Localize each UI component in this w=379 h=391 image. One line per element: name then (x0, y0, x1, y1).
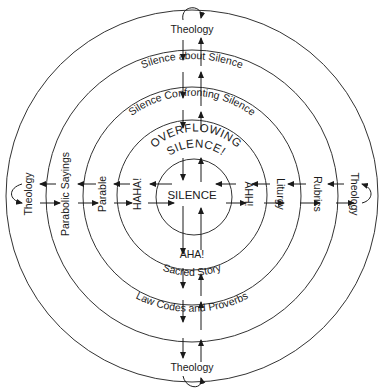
label-haha: HAHA! (131, 178, 143, 210)
loop-arrow-left (12, 184, 23, 203)
label-ahh: AHH! (243, 181, 255, 206)
loop-arrow-right (362, 184, 371, 203)
label-silence-about-silence: Silence about Silence (139, 49, 245, 70)
label-theology-bottom: Theology (170, 361, 214, 373)
label-parable: Parable (96, 176, 108, 212)
label-liturgy: Liturgy (275, 178, 287, 210)
label-law-codes-and-proverbs: Law Codes and Proverbs (134, 289, 249, 314)
label-aha: AHA! (180, 248, 205, 260)
label-silence-confronting-silence: Silence Confronting Silence (126, 86, 258, 118)
silence-concentric-diagram: SILENCE OVERFLOWING SILENCE! HAHA! AHH! … (0, 0, 379, 391)
label-theology-right: Theology (349, 172, 361, 216)
label-silence-exclaim: SILENCE! (164, 137, 228, 157)
loop-arrow-bottom (183, 376, 201, 387)
label-parabolic-sayings: Parabolic Sayings (59, 152, 71, 236)
label-sacred-story: Sacred Story (162, 261, 224, 278)
label-theology-top: Theology (170, 23, 214, 35)
label-rubrics: Rubrics (312, 176, 324, 212)
center-label-silence: SILENCE (167, 189, 217, 201)
label-theology-left: Theology (22, 172, 34, 216)
